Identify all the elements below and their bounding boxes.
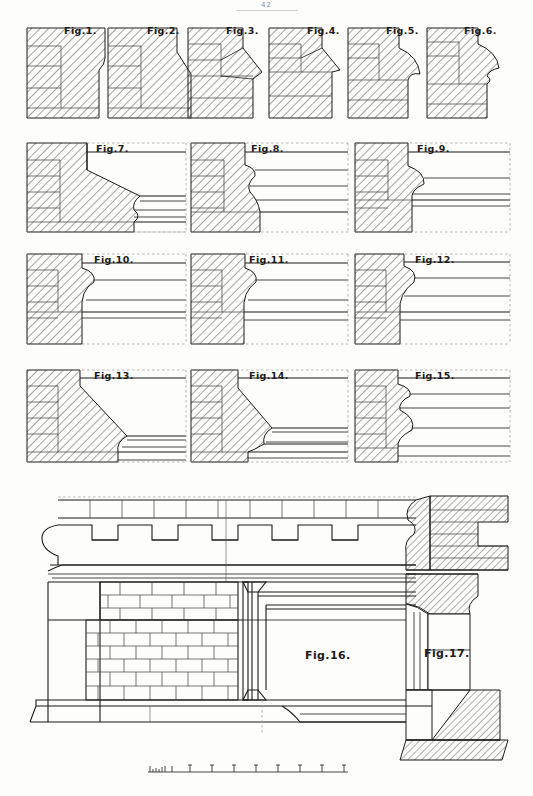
figure-fig12 — [355, 254, 510, 344]
figure-fig9 — [355, 143, 510, 232]
figure-fig17 — [400, 496, 508, 760]
figure-label-fig1: Fig.1. — [64, 26, 97, 36]
figure-label-fig9: Fig.9. — [417, 144, 450, 154]
figure-label-fig10: Fig.10. — [94, 255, 134, 265]
figure-label-fig17: Fig.17. — [424, 648, 470, 659]
figure-label-fig3: Fig.3. — [226, 26, 259, 36]
figure-label-fig2: Fig.2. — [147, 26, 180, 36]
figure-fig4 — [269, 28, 340, 118]
figure-fig8 — [191, 143, 348, 232]
figure-fig3 — [188, 28, 262, 118]
figure-fig1 — [27, 28, 105, 118]
figure-label-fig11: Fig.11. — [249, 255, 289, 265]
figure-fig10 — [27, 254, 186, 344]
figure-fig2 — [108, 28, 191, 118]
figure-fig6 — [427, 28, 499, 118]
figure-fig11 — [191, 254, 348, 344]
figure-label-fig8: Fig.8. — [251, 144, 284, 154]
figure-fig13 — [27, 370, 186, 462]
figure-fig5 — [348, 28, 420, 118]
figure-label-fig16: Fig.16. — [305, 650, 351, 661]
figure-label-fig7: Fig.7. — [96, 144, 129, 154]
figure-fig15 — [355, 370, 510, 462]
architectural-plate: .o{fill:none;stroke:#1b1b1b;stroke-width… — [0, 0, 533, 796]
figure-label-fig13: Fig.13. — [94, 371, 134, 381]
figure-label-fig4: Fig.4. — [307, 26, 340, 36]
scale-bar — [148, 765, 348, 772]
figure-label-fig12: Fig.12. — [415, 255, 455, 265]
figure-label-fig14: Fig.14. — [249, 371, 289, 381]
figure-label-fig5: Fig.5. — [386, 26, 419, 36]
figure-fig14 — [191, 370, 348, 462]
figure-fig16 — [30, 497, 416, 734]
figure-label-fig15: Fig.15. — [415, 371, 455, 381]
figure-label-fig6: Fig.6. — [464, 26, 497, 36]
figure-fig7 — [27, 143, 186, 232]
